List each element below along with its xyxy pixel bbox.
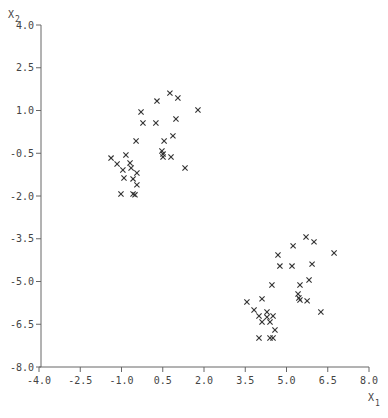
x-marker — [133, 138, 138, 143]
x-marker — [297, 282, 302, 287]
x-marker — [264, 309, 269, 314]
x-tick-label: 2.0 — [195, 375, 213, 386]
x-tick-label: -2.5 — [68, 375, 92, 386]
x-marker — [275, 252, 280, 257]
x-marker — [251, 307, 256, 312]
x-marker — [140, 120, 145, 125]
x-marker — [168, 154, 173, 159]
x-marker — [269, 282, 274, 287]
y-axis-label-main: X — [8, 9, 14, 20]
x-marker — [289, 264, 294, 269]
y-tick-label: -0.5 — [10, 148, 34, 159]
x-marker — [264, 315, 269, 320]
x-marker — [118, 191, 123, 196]
x-marker — [127, 160, 132, 165]
x-tick-label: 6.5 — [319, 375, 337, 386]
x-marker — [108, 155, 113, 160]
y-tick-label: -3.5 — [10, 233, 34, 244]
x-axis-label: X 1 — [368, 392, 380, 408]
x-marker — [311, 239, 316, 244]
x-marker — [115, 161, 120, 166]
y-tick-label: -6.5 — [10, 319, 34, 330]
x-marker — [277, 264, 282, 269]
x-marker — [134, 170, 139, 175]
x-marker — [305, 298, 310, 303]
x-marker — [270, 335, 275, 340]
y-tick-label: -2.0 — [10, 191, 34, 202]
x-tick-label: 0.5 — [154, 375, 172, 386]
x-marker — [153, 120, 158, 125]
x-marker — [121, 175, 126, 180]
x-marker — [256, 335, 261, 340]
x-marker — [272, 327, 277, 332]
x-tick-label: 3.5 — [236, 375, 254, 386]
x-marker — [154, 98, 159, 103]
x-marker — [173, 116, 178, 121]
x-marker — [318, 309, 323, 314]
y-tick-label: -5.0 — [10, 276, 34, 287]
x-tick-label: -1.0 — [109, 375, 133, 386]
x-marker — [309, 262, 314, 267]
x-marker — [267, 319, 272, 324]
x-tick-label: 5.0 — [277, 375, 295, 386]
x-marker — [162, 138, 167, 143]
x-marker — [270, 313, 275, 318]
x-marker — [259, 319, 264, 324]
x-axis-ticks: -4.0-2.5-1.00.52.03.55.06.58.0 — [27, 367, 378, 386]
x-axis-label-sub: 1 — [375, 399, 380, 408]
scatter-plot: X 2 X 1 4.02.51.0-0.5-2.0-3.5-5.0-6.5-8.… — [0, 0, 388, 418]
x-marker — [123, 152, 128, 157]
x-marker — [134, 182, 139, 187]
data-markers — [108, 91, 336, 341]
y-tick-label: 4.0 — [16, 20, 34, 31]
x-tick-label: 8.0 — [360, 375, 378, 386]
x-marker — [120, 167, 125, 172]
x-marker — [259, 296, 264, 301]
x-marker — [256, 313, 261, 318]
x-marker — [160, 154, 165, 159]
x-marker — [291, 243, 296, 248]
y-tick-label: 1.0 — [16, 105, 34, 116]
y-axis-ticks: 4.02.51.0-0.5-2.0-3.5-5.0-6.5-8.0 — [10, 20, 41, 373]
x-marker — [130, 176, 135, 181]
x-marker — [331, 250, 336, 255]
x-axis-label-main: X — [368, 392, 374, 403]
x-marker — [306, 277, 311, 282]
y-tick-label: -8.0 — [10, 362, 34, 373]
x-marker — [175, 95, 180, 100]
x-marker — [244, 299, 249, 304]
x-marker — [182, 165, 187, 170]
x-marker — [170, 133, 175, 138]
y-tick-label: 2.5 — [16, 62, 34, 73]
x-tick-label: -4.0 — [27, 375, 51, 386]
x-marker — [195, 107, 200, 112]
x-marker — [138, 109, 143, 114]
x-marker — [167, 91, 172, 96]
x-marker — [303, 234, 308, 239]
x-marker — [129, 165, 134, 170]
x-marker — [297, 297, 302, 302]
